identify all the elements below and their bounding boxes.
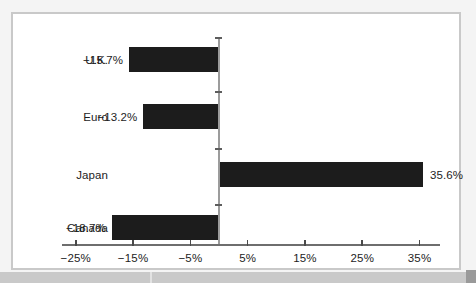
bar-u-k <box>129 47 219 72</box>
x-axis-tick-label: −5% <box>178 252 202 264</box>
category-label-japan: Japan <box>23 169 108 181</box>
x-axis-tick-label: 15% <box>293 252 317 264</box>
x-axis-tick <box>247 240 249 246</box>
x-axis-tick <box>132 240 134 246</box>
zero-axis-tick <box>215 204 222 206</box>
value-label-japan: 35.6% <box>430 169 476 181</box>
plot-area: U.K.−15.7%Euro−13.2%Japan35.6%Canada−18.… <box>13 14 463 272</box>
x-axis-tick-label: 35% <box>408 252 432 264</box>
x-axis-tick <box>361 240 363 246</box>
zero-axis-tick <box>215 148 222 150</box>
x-axis-tick <box>75 240 77 246</box>
x-axis-tick-label: 25% <box>350 252 374 264</box>
x-axis-tick-label: −25% <box>60 252 91 264</box>
zero-axis-line <box>218 37 220 244</box>
zero-axis-tick <box>215 37 222 39</box>
x-axis-tick <box>419 240 421 246</box>
x-axis-tick <box>190 240 192 246</box>
bar-canada <box>112 215 219 240</box>
value-label-u-k: −15.7% <box>59 54 123 66</box>
x-axis-tick <box>304 240 306 246</box>
value-label-euro: −13.2% <box>73 111 137 123</box>
figure-page: U.K.−15.7%Euro−13.2%Japan35.6%Canada−18.… <box>0 0 476 283</box>
x-axis-line <box>62 244 440 246</box>
x-axis-tick-label: 5% <box>239 252 256 264</box>
page-band-edge <box>466 270 476 283</box>
chart-frame: U.K.−15.7%Euro−13.2%Japan35.6%Canada−18.… <box>11 12 461 270</box>
zero-axis-tick <box>215 91 222 93</box>
x-axis-tick-label: −15% <box>118 252 149 264</box>
page-bottom-band <box>0 272 476 283</box>
bar-japan <box>219 162 423 187</box>
value-label-canada: −18.7% <box>42 222 106 234</box>
bar-euro <box>143 104 219 129</box>
page-band-seam <box>150 272 152 283</box>
